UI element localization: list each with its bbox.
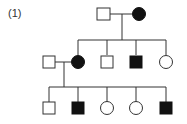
female-affected-II-1 <box>72 56 85 69</box>
female-unaffected-II-4 <box>160 56 173 69</box>
male-unaffected-II-2 <box>101 56 113 68</box>
female-unaffected-III-4 <box>130 102 143 115</box>
male-unaffected-II-spouse <box>43 56 55 68</box>
female-affected-I-2 <box>133 8 146 21</box>
male-affected-II-3 <box>130 56 142 68</box>
male-unaffected-III-1 <box>43 102 55 114</box>
male-affected-III-2 <box>72 102 84 114</box>
pedigree-chart <box>0 0 187 124</box>
male-unaffected-I-1 <box>97 8 110 20</box>
male-affected-III-5 <box>160 102 172 114</box>
female-unaffected-III-3 <box>101 102 114 115</box>
